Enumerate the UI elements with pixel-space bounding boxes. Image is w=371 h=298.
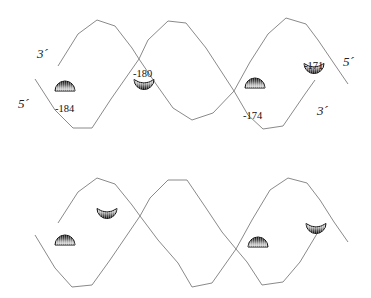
strand-end-label: 3´ (36, 46, 49, 61)
strand-end-label: 3´ (316, 103, 329, 118)
site-value-label: -180 (133, 68, 152, 79)
top-panel: 3´5´5´3´ -184-180-174-171 (18, 18, 355, 129)
strand-end-label: 5´ (18, 96, 30, 111)
site-value-label: -184 (55, 103, 75, 114)
binding-sites (55, 209, 326, 248)
site-value-label: -174 (243, 110, 263, 121)
hemisphere-cap-icon (245, 78, 265, 88)
helix-strand-a (58, 178, 348, 287)
hemisphere-cap-icon (55, 81, 75, 91)
hemisphere-cup-icon (134, 80, 154, 90)
dna-helix-figure: 3´5´5´3´ -184-180-174-171 (0, 0, 371, 298)
hemisphere-cup-icon (97, 209, 117, 219)
hemisphere-cup-icon (306, 224, 326, 234)
helix-strand-b (35, 21, 315, 129)
site-value-label: -171 (304, 60, 323, 71)
strand-end-label: 5´ (343, 54, 355, 69)
hemisphere-cap-icon (248, 237, 268, 247)
bottom-panel (35, 178, 348, 287)
binding-sites: -184-180-174-171 (55, 60, 324, 121)
helix-strand-b (35, 180, 318, 287)
hemisphere-cap-icon (55, 235, 75, 245)
